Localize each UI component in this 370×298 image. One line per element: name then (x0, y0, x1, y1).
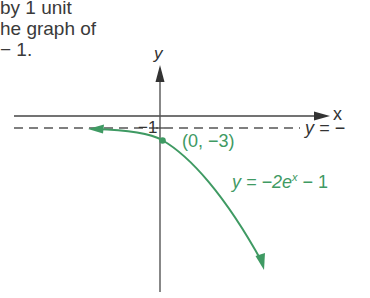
curve-label: y = −2ex − 1 (232, 171, 328, 193)
curve (95, 129, 262, 262)
curve-label-tail: − 1 (298, 172, 329, 192)
curve-right-arrow-icon (256, 253, 266, 270)
y-axis-label: y (154, 44, 163, 64)
intercept-point (159, 137, 166, 144)
curve-label-main: y = −2e (232, 172, 292, 192)
curve-left-arrow-icon (88, 125, 104, 134)
point-label: (0, −3) (182, 131, 235, 152)
asymptote-label: y = − (305, 118, 345, 139)
tick-label-minus-1: −1 (138, 118, 157, 138)
y-axis-arrow-icon (156, 65, 165, 82)
